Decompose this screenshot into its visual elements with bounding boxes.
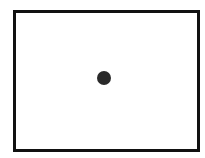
center-dot — [97, 71, 111, 85]
